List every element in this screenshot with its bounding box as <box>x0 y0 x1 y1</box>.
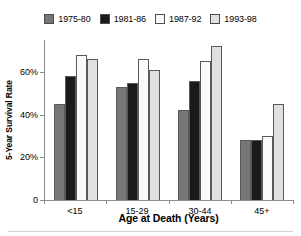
bar <box>87 59 98 200</box>
y-axis-tick-label: 20% <box>20 153 38 162</box>
bar-groups <box>45 40 293 200</box>
x-axis-tick <box>169 200 170 204</box>
bar <box>76 55 87 200</box>
bar-group <box>231 40 293 200</box>
legend-item: 1987-92 <box>155 14 201 24</box>
bottom-divider <box>8 231 293 232</box>
bar <box>65 76 76 200</box>
bar <box>127 83 138 200</box>
legend-swatch-icon <box>155 14 165 24</box>
legend-item-label: 1975-80 <box>58 14 90 24</box>
y-axis-title: 5-Year Survival Rate <box>2 40 16 200</box>
y-axis-tick <box>40 157 44 158</box>
x-axis-tick <box>106 200 107 204</box>
legend-swatch-icon <box>44 14 54 24</box>
bar <box>200 61 211 200</box>
legend-item-label: 1987-92 <box>169 14 201 24</box>
plot-area: 020%40%60% <1515-2930-4445+ <box>44 40 293 200</box>
y-axis-title-text: 5-Year Survival Rate <box>4 80 14 160</box>
bar <box>262 136 273 200</box>
bar <box>273 104 284 200</box>
legend-item-label: 1993-98 <box>224 14 256 24</box>
bar <box>178 110 189 200</box>
y-axis-tick <box>40 72 44 73</box>
y-axis-tick <box>40 115 44 116</box>
legend-item: 1981-86 <box>100 14 146 24</box>
bar <box>189 81 200 200</box>
legend-item: 1993-98 <box>210 14 256 24</box>
bar <box>240 140 251 200</box>
bar-group <box>107 40 169 200</box>
x-axis-tick <box>44 200 45 204</box>
legend-item-label: 1981-86 <box>114 14 146 24</box>
x-axis-title: Age at Death (Years) <box>44 212 293 224</box>
legend-swatch-icon <box>100 14 110 24</box>
bar <box>149 70 160 200</box>
x-axis-tick <box>231 200 232 204</box>
y-axis-tick-label: 60% <box>20 68 38 77</box>
legend-swatch-icon <box>210 14 220 24</box>
bar-group <box>45 40 107 200</box>
y-axis-tick-label: 0 <box>33 196 38 205</box>
bar <box>251 140 262 200</box>
bar <box>211 46 222 200</box>
bar-group <box>169 40 231 200</box>
x-axis-tick <box>293 200 294 204</box>
bar <box>138 59 149 200</box>
bar <box>54 104 65 200</box>
chart-legend: 1975-801981-861987-921993-98 <box>0 11 301 27</box>
y-axis-tick-label: 40% <box>20 110 38 119</box>
bar <box>116 87 127 200</box>
legend-item: 1975-80 <box>44 14 90 24</box>
bar-chart-figure: 1975-801981-861987-921993-98 5-Year Surv… <box>0 0 301 236</box>
